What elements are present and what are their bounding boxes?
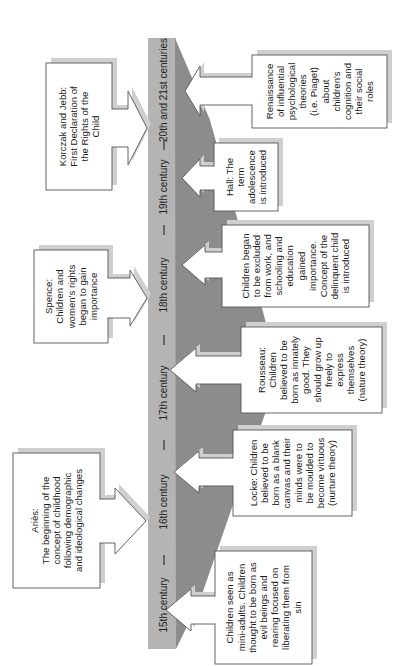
event-text-line: term: [235, 167, 246, 186]
event-text-line: Locke: Children: [248, 440, 259, 507]
century-label: 17th century: [158, 365, 169, 420]
event-text-line: liberating them from: [280, 565, 291, 650]
arrow-seam: [240, 357, 242, 384]
event-text-line: Ariès:: [29, 508, 40, 533]
event-renaissance: Renaissanceof influentialpsychologicalth…: [185, 50, 392, 128]
event-text-line: following demographic: [62, 473, 73, 569]
event-text-line: born as innately: [289, 336, 300, 404]
arrow-seam: [107, 279, 109, 318]
event-text-line: The beginning of the: [40, 477, 51, 564]
arrow-seam: [232, 459, 234, 486]
event-text-line: sin: [292, 601, 303, 613]
event-text-line: concept of childhood: [51, 476, 62, 564]
century-label: 20th and 21st centuries: [158, 38, 169, 142]
event-text-line: children's: [331, 71, 342, 111]
event-text-line: canvas and their: [281, 437, 292, 508]
arrow-seam: [99, 500, 101, 543]
event-text-line: Hall: The: [224, 158, 235, 196]
event-text-line: freely to: [323, 353, 334, 387]
event-text-line: Children seen as: [224, 571, 235, 643]
event-text-line: express: [334, 353, 345, 387]
event-text-line: of influential: [275, 66, 286, 117]
event-text-line: importance.: [307, 241, 318, 291]
event-text-line: Spence:: [43, 279, 54, 314]
event-text-line: delinquent child: [329, 233, 340, 300]
event-text-line: good. They: [300, 346, 311, 394]
century-label: 15th century: [158, 577, 169, 632]
event-text-line: minds were to: [293, 443, 304, 503]
event-text-line: schooling and: [273, 236, 284, 295]
arrow-seam: [214, 597, 216, 624]
event-text-line: (i.e. Piaget): [308, 67, 319, 116]
event-text: Hall: Thetermadolescenceis introduced: [224, 150, 269, 204]
event-text-line: Children: [267, 352, 278, 388]
event-text-line: the Rights of the: [79, 92, 90, 162]
event-text-line: Concept of the: [318, 235, 329, 297]
event-text-line: theories: [297, 74, 308, 108]
event-text-line: and ideological changes: [73, 469, 84, 572]
event-text-line: Renaissance: [264, 64, 275, 119]
event-korczak-jebb: Korczak and Jebb:First Declaration ofthe…: [46, 58, 151, 190]
event-text-line: Korczak and Jebb:: [57, 87, 68, 166]
event-text-line: psychological: [286, 63, 297, 121]
childhood-timeline-diagram: 20th and 21st centuries19th century18th …: [0, 0, 407, 666]
event-text-line: adolescence: [246, 150, 257, 204]
event-text-line: is introduced: [257, 150, 268, 204]
event-text-line: about: [320, 79, 331, 103]
event-aries: Ariès:The beginning of theconcept of chi…: [13, 448, 150, 588]
event-text-line: their social: [353, 69, 364, 115]
arrow-seam: [111, 110, 113, 147]
event-text-line: Children began: [240, 233, 251, 298]
event-text-line: born as a blank: [270, 440, 281, 506]
event-text-line: to be excluded: [251, 235, 262, 297]
diagram-canvas: 20th and 21st centuries19th century18th …: [0, 0, 407, 666]
century-label: 18th century: [158, 257, 169, 312]
event-text-line: Child: [90, 116, 101, 138]
event-text-line: believed to be: [259, 443, 270, 503]
event-text-line: be moulded to: [304, 443, 315, 504]
arrow-right-icon: [112, 91, 147, 165]
arrow-seam: [251, 78, 253, 105]
event-spence: Spence:Children andwomen's rightsbegan t…: [34, 245, 151, 343]
century-label: 16th century: [158, 474, 169, 529]
event-text-line: mini-adults. Children: [236, 564, 247, 651]
event-text-line: themselves: [345, 346, 356, 395]
event-text-line: First Declaration of: [68, 86, 79, 167]
event-text: Children seen asmini-adults. Childrentho…: [224, 562, 302, 653]
event-text-line: rearing focused on: [269, 568, 280, 647]
arrow-seam: [221, 253, 223, 278]
event-text-line: believed to be: [278, 340, 289, 400]
event-text-line: Children and: [54, 269, 65, 323]
event-text-line: (nature theory): [356, 339, 367, 402]
left-events: Korczak and Jebb:First Declaration ofthe…: [13, 58, 151, 588]
arrow-seam: [213, 167, 215, 190]
event-text-line: importance: [88, 273, 99, 320]
event-text-line: become virtuous: [315, 438, 326, 509]
event-text-line: women's rights: [66, 264, 77, 329]
event-text-line: thought to be born as: [247, 562, 258, 653]
event-text-line: is introduced: [340, 239, 351, 293]
event-text-line: cognition and: [342, 63, 353, 120]
event-text-line: from work, and: [262, 234, 273, 297]
event-text-line: began to gain: [77, 267, 88, 325]
century-label: 19th century: [158, 159, 169, 214]
event-text-line: gained: [296, 252, 307, 281]
event-text-line: evil beings and: [258, 575, 269, 639]
event-text: Locke: Childrenbelieved to beborn as a b…: [248, 437, 337, 508]
event-text-line: Rousseau:: [256, 347, 267, 393]
event-text-line: (nurture theory): [326, 440, 337, 506]
event-text-line: roles: [364, 81, 375, 102]
event-text-line: education: [284, 245, 295, 287]
event-text-line: should grow up: [312, 337, 323, 402]
